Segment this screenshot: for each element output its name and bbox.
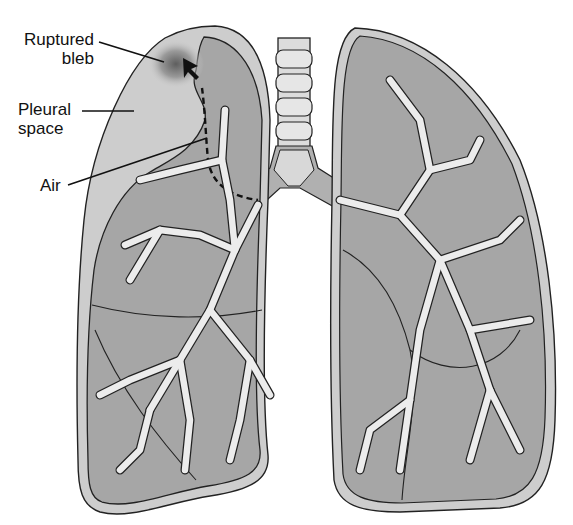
lung-diagram	[0, 0, 573, 525]
label-air-line1: Air	[40, 176, 61, 195]
label-air: Air	[40, 176, 61, 195]
label-pleural-space: Pleural space	[18, 100, 71, 138]
left-lung	[77, 26, 270, 514]
label-pleural-space-line2: space	[18, 119, 71, 138]
right-lung	[331, 28, 556, 512]
label-ruptured-bleb-line1: Ruptured	[2, 30, 94, 49]
label-pleural-space-line1: Pleural	[18, 100, 71, 119]
label-ruptured-bleb: Ruptured bleb	[2, 30, 94, 68]
label-ruptured-bleb-line2: bleb	[2, 49, 94, 68]
